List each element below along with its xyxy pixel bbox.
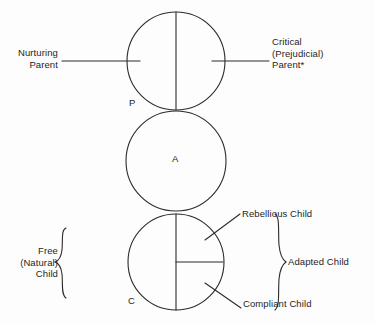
child-state-letter: C (128, 295, 135, 306)
nurturing-parent-label: Nurturing Parent (2, 47, 58, 70)
rebellious-child-label: Rebellious Child (242, 208, 362, 220)
adapted-child-brace (275, 214, 286, 310)
critical-parent-label: Critical (Prejudicial) Parent* (272, 36, 372, 71)
adapted-child-label: Adapted Child (288, 256, 375, 268)
compliant-child-label: Compliant Child (243, 298, 363, 310)
parent-state-letter: P (129, 97, 135, 108)
ego-state-diagram: Nurturing Parent Critical (Prejudicial) … (0, 0, 375, 323)
rebellious-child-leader-line (205, 214, 240, 240)
free-child-label: Free (Natural) Child (2, 245, 58, 280)
adult-state-letter: A (172, 153, 178, 164)
